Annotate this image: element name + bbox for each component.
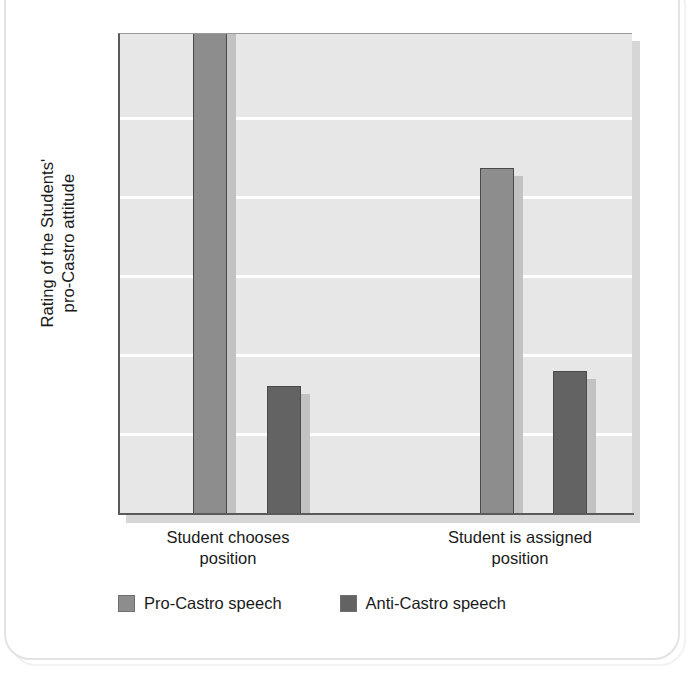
bar-shadow-1 (301, 394, 310, 515)
bar-chart-figure: Rating of the Students' pro-Castro attit… (0, 0, 689, 676)
legend-item-anti-castro[interactable]: Anti-Castro speech (340, 594, 506, 613)
bar-anti-castro-speech-group-0[interactable] (267, 386, 301, 514)
bar-pro-castro-speech-group-1[interactable] (480, 168, 514, 514)
bar-pro-castro-speech-group-0[interactable] (193, 33, 227, 514)
legend-swatch-anti-castro (340, 595, 357, 612)
plot-area (118, 33, 632, 515)
legend-item-pro-castro[interactable]: Pro-Castro speech (118, 594, 282, 613)
legend-label-pro-castro: Pro-Castro speech (144, 594, 282, 613)
legend-label-anti-castro: Anti-Castro speech (366, 594, 506, 613)
chart-legend: Pro-Castro speech Anti-Castro speech (118, 594, 578, 613)
x-axis-category-label-0: Student chooses position (128, 527, 328, 570)
bar-shadow-0 (227, 33, 236, 515)
bar-shadow-3 (587, 379, 596, 515)
bar-anti-castro-speech-group-1[interactable] (553, 371, 587, 514)
x-axis-line (118, 513, 634, 515)
x-axis-category-label-1: Student is assigned position (410, 527, 630, 570)
legend-swatch-pro-castro (118, 595, 135, 612)
y-axis-label: Rating of the Students' pro-Castro attit… (37, 113, 79, 373)
bar-shadow-2 (514, 176, 523, 515)
